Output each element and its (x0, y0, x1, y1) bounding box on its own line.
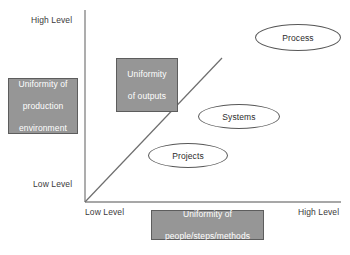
projects-ellipse: Projects (148, 143, 228, 168)
x-axis-low-label: Low Level (85, 207, 124, 217)
projects-label: Projects (172, 151, 204, 161)
process-label: Process (282, 33, 313, 43)
y-axis-low-label: Low Level (33, 179, 72, 189)
uniformity-of-outputs-text: Uniformity of outputs (123, 69, 170, 102)
process-ellipse: Process (255, 24, 341, 51)
y-axis-high-label: High Level (31, 15, 72, 25)
title-line: Uniformity (125, 69, 168, 80)
title-line: environment (16, 123, 69, 134)
uniformity-of-outputs-box: Uniformity of outputs (116, 58, 178, 112)
x-axis-high-label: High Level (298, 207, 339, 217)
y-axis-title-box: Uniformity of production environment (8, 78, 78, 134)
x-axis-title-text: Uniformity of people/steps/methods (161, 209, 254, 242)
y-axis-title-text: Uniformity of production environment (14, 79, 71, 134)
title-line: production (16, 101, 69, 112)
title-line: of outputs (125, 91, 168, 102)
title-line: Uniformity of (163, 209, 252, 220)
x-axis-title-box: Uniformity of people/steps/methods (151, 210, 264, 240)
systems-label: Systems (222, 112, 255, 122)
title-line: Uniformity of (16, 79, 69, 90)
diagram-canvas: High Level Low Level Low Level High Leve… (0, 0, 350, 255)
title-line: people/steps/methods (163, 231, 252, 242)
systems-ellipse: Systems (198, 104, 280, 129)
